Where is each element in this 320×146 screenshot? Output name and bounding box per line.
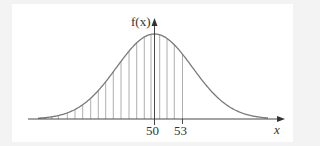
normal-curve [38,34,268,118]
y-axis-arrow-icon [152,18,158,26]
x-axis-label: x [274,123,280,136]
tick-label-50: 50 [146,124,159,137]
y-axis-label: f(x) [131,15,151,28]
tick-label-53: 53 [174,124,187,137]
shaded-region-hatching [46,34,183,119]
